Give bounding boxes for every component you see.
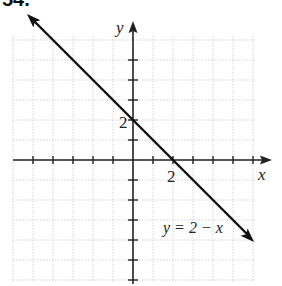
y-tick-label-2: 2	[119, 113, 128, 132]
x-axis-label: x	[257, 165, 266, 184]
equation-label: y = 2 − x	[161, 219, 223, 237]
x-tick-label-2: 2	[167, 167, 176, 186]
line-graph: 2 2 x y y = 2 − x	[0, 0, 282, 286]
grid	[13, 36, 255, 282]
axis-ticks	[33, 60, 253, 280]
function-line	[27, 14, 254, 242]
y-axis-label: y	[114, 18, 124, 37]
line-y-equals-2-minus-x	[33, 20, 249, 236]
